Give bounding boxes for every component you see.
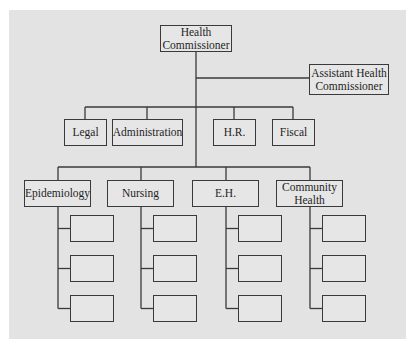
node-sub-unit xyxy=(70,295,114,322)
node-label: H.R. xyxy=(224,126,246,139)
node-sub-unit xyxy=(153,255,197,282)
node-label: Health Commissioner xyxy=(161,26,231,52)
node-administration: Administration xyxy=(112,119,183,146)
node-label: Community Health xyxy=(277,181,342,207)
node-assistant-health-commissioner: Assistant Health Commissioner xyxy=(309,64,389,95)
node-sub-unit xyxy=(70,215,114,242)
node-sub-unit xyxy=(322,215,366,242)
node-label: Legal xyxy=(72,126,98,139)
node-nursing: Nursing xyxy=(107,180,174,207)
node-eh: E.H. xyxy=(192,180,259,207)
node-legal: Legal xyxy=(64,119,107,146)
node-sub-unit xyxy=(238,215,282,242)
node-community-health: Community Health xyxy=(276,180,343,207)
node-hr: H.R. xyxy=(213,119,256,146)
node-label: Nursing xyxy=(122,187,159,200)
node-sub-unit xyxy=(153,215,197,242)
node-label: Epidemiology xyxy=(25,187,90,200)
node-sub-unit xyxy=(322,255,366,282)
node-sub-unit xyxy=(322,295,366,322)
node-label: Assistant Health Commissioner xyxy=(310,67,388,93)
node-sub-unit xyxy=(238,255,282,282)
node-sub-unit xyxy=(70,255,114,282)
node-epidemiology: Epidemiology xyxy=(24,180,91,207)
node-label: Administration xyxy=(113,126,183,139)
node-sub-unit xyxy=(153,295,197,322)
node-sub-unit xyxy=(238,295,282,322)
node-fiscal: Fiscal xyxy=(272,119,315,146)
node-label: Fiscal xyxy=(280,126,307,139)
node-health-commissioner: Health Commissioner xyxy=(160,25,232,52)
node-label: E.H. xyxy=(215,187,236,200)
